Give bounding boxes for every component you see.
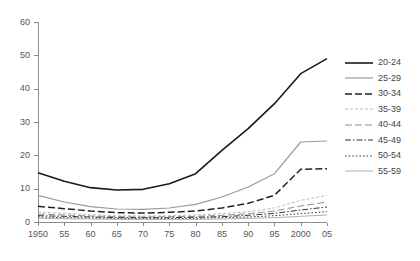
- legend-item-20-24[interactable]: 20-24: [345, 55, 420, 71]
- legend-label: 35-39: [378, 105, 401, 114]
- legend-label: 50-54: [378, 151, 401, 160]
- legend-line-swatch: [345, 73, 373, 83]
- legend-item-45-49[interactable]: 45-49: [345, 133, 420, 149]
- legend-item-40-44[interactable]: 40-44: [345, 117, 420, 133]
- legend-line-swatch: [345, 58, 373, 68]
- series-line-20-24: [38, 59, 327, 190]
- chart-legend: 20-2425-2930-3435-3940-4445-4950-5455-59: [345, 55, 420, 179]
- legend-line-swatch: [345, 135, 373, 145]
- legend-line-swatch: [345, 120, 373, 130]
- legend-label: 25-29: [378, 74, 401, 83]
- legend-label: 45-49: [378, 136, 401, 145]
- legend-label: 20-24: [378, 58, 401, 67]
- legend-label: 30-34: [378, 89, 401, 98]
- legend-label: 40-44: [378, 120, 401, 129]
- legend-item-55-59[interactable]: 55-59: [345, 164, 420, 180]
- legend-label: 55-59: [378, 167, 401, 176]
- legend-line-swatch: [345, 166, 373, 176]
- line-chart: 0102030405060 19505560657075808590952000…: [0, 0, 420, 261]
- legend-line-swatch: [345, 104, 373, 114]
- legend-item-30-34[interactable]: 30-34: [345, 86, 420, 102]
- legend-item-25-29[interactable]: 25-29: [345, 71, 420, 87]
- legend-line-swatch: [345, 89, 373, 99]
- series-line-25-29: [38, 141, 327, 209]
- legend-item-35-39[interactable]: 35-39: [345, 102, 420, 118]
- legend-line-swatch: [345, 151, 373, 161]
- legend-item-50-54[interactable]: 50-54: [345, 148, 420, 164]
